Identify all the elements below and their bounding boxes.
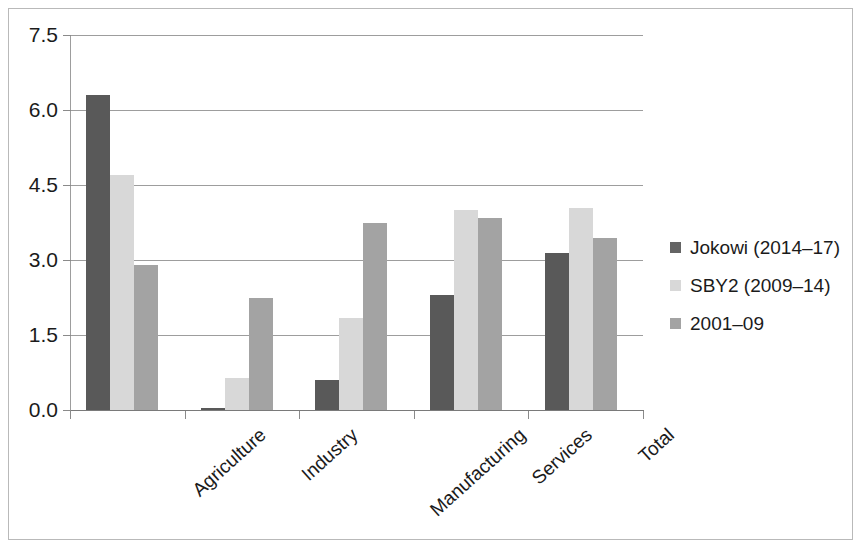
x-axis-category-label: Services [528, 424, 597, 489]
x-axis-tick [70, 411, 71, 419]
plot-area [70, 35, 643, 410]
bar[interactable] [454, 210, 478, 410]
y-axis-tick-label: 0.0 [6, 399, 58, 420]
legend-item-label: 2001–09 [690, 314, 764, 333]
y-axis-tick [63, 35, 71, 36]
bar-group [70, 35, 185, 410]
legend-item[interactable]: 2001–09 [670, 304, 840, 342]
bar-group [528, 35, 643, 410]
bar[interactable] [249, 298, 273, 411]
y-axis-tick-label: 1.5 [6, 324, 58, 345]
bar[interactable] [110, 175, 134, 410]
y-axis-labels: 0.01.53.04.56.07.5 [0, 0, 58, 546]
bar[interactable] [569, 208, 593, 411]
bar-group [414, 35, 529, 410]
bar-group [299, 35, 414, 410]
legend-item[interactable]: Jokowi (2014–17) [670, 228, 840, 266]
legend-item-label: SBY2 (2009–14) [690, 276, 831, 295]
bar[interactable] [545, 253, 569, 411]
x-axis-category-label: Manufacturing [425, 424, 529, 521]
y-axis-tick-label: 7.5 [6, 24, 58, 45]
x-axis-category-label: Total [634, 424, 679, 467]
y-axis-tick-label: 4.5 [6, 174, 58, 195]
legend-item-label: Jokowi (2014–17) [690, 238, 840, 257]
bar[interactable] [363, 223, 387, 411]
bar[interactable] [86, 95, 110, 410]
x-axis-category-label: Agriculture [189, 424, 271, 501]
legend-swatch-icon [670, 280, 681, 291]
x-axis-category-label: Industry [297, 424, 362, 486]
y-axis-tick-label: 3.0 [6, 249, 58, 270]
bar-chart-figure: 0.01.53.04.56.07.5 AgricultureIndustryMa… [0, 0, 861, 546]
y-axis-tick [63, 185, 71, 186]
bar[interactable] [201, 408, 225, 411]
x-axis-tick [528, 411, 529, 419]
bar-group [185, 35, 300, 410]
x-axis-tick [414, 411, 415, 419]
bar[interactable] [315, 380, 339, 410]
bar[interactable] [225, 378, 249, 411]
bar[interactable] [134, 265, 158, 410]
gridline [70, 410, 643, 411]
x-axis-tick [185, 411, 186, 419]
y-axis-tick [63, 260, 71, 261]
legend-swatch-icon [670, 318, 681, 329]
y-axis-tick [63, 110, 71, 111]
y-axis-tick-label: 6.0 [6, 99, 58, 120]
x-axis-tick [643, 411, 644, 419]
bar[interactable] [339, 318, 363, 411]
x-axis-tick [299, 411, 300, 419]
y-axis-tick [63, 335, 71, 336]
bar[interactable] [478, 218, 502, 411]
legend-item[interactable]: SBY2 (2009–14) [670, 266, 840, 304]
legend-swatch-icon [670, 242, 681, 253]
chart-legend: Jokowi (2014–17) SBY2 (2009–14) 2001–09 [670, 228, 840, 342]
bar[interactable] [430, 295, 454, 410]
bar[interactable] [593, 238, 617, 411]
